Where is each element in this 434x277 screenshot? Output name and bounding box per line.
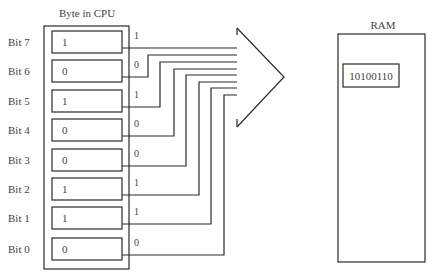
- wire-value-label: 0: [134, 118, 139, 129]
- wire-value-label: 0: [134, 59, 139, 70]
- wire-value-label: 1: [134, 206, 139, 217]
- bit-value: 0: [62, 124, 68, 136]
- bit-row: Bit 711: [8, 30, 139, 53]
- bit-wire: [122, 88, 237, 224]
- bit-row: Bit 211: [8, 177, 139, 200]
- cpu-to-ram-diagram: Byte in CPU Bit 711Bit 600Bit 511Bit 400…: [0, 0, 434, 277]
- bit-wire: [122, 55, 237, 77]
- ram-title: RAM: [370, 19, 395, 31]
- bit-value: 0: [62, 65, 68, 77]
- bit-value: 1: [62, 212, 68, 224]
- bit-row: Bit 111: [8, 206, 139, 229]
- bit-rows: Bit 711Bit 600Bit 511Bit 400Bit 300Bit 2…: [8, 30, 139, 260]
- bit-label: Bit 1: [8, 212, 30, 224]
- wire-value-label: 1: [134, 30, 139, 41]
- bit-value: 1: [62, 36, 68, 48]
- wire-value-label: 0: [134, 148, 139, 159]
- ram-box: [338, 34, 425, 262]
- bus-arrow: [237, 28, 284, 127]
- wires: [122, 48, 237, 255]
- bit-value: 0: [62, 243, 68, 255]
- bit-value: 1: [62, 95, 68, 107]
- bit-row: Bit 600: [8, 59, 139, 82]
- bit-row: Bit 000: [8, 237, 139, 260]
- wire-value-label: 1: [134, 177, 139, 188]
- ram-byte-value: 10100110: [349, 70, 393, 82]
- bit-row: Bit 300: [8, 148, 139, 171]
- bit-row: Bit 511: [8, 89, 139, 112]
- bit-wire: [122, 75, 237, 166]
- cpu-byte-box: [44, 26, 129, 269]
- wire-value-label: 1: [134, 89, 139, 100]
- bit-label: Bit 2: [8, 183, 30, 195]
- bit-row: Bit 400: [8, 118, 139, 141]
- bit-value: 1: [62, 183, 68, 195]
- cpu-title: Byte in CPU: [59, 7, 115, 19]
- bit-label: Bit 3: [8, 154, 30, 166]
- bit-label: Bit 6: [8, 65, 30, 77]
- bit-wire: [122, 69, 237, 136]
- bit-label: Bit 0: [8, 243, 30, 255]
- wire-value-label: 0: [134, 237, 139, 248]
- bit-label: Bit 7: [8, 36, 30, 48]
- bit-value: 0: [62, 154, 68, 166]
- bit-label: Bit 5: [8, 95, 30, 107]
- bit-wire: [122, 82, 237, 195]
- bit-wire: [122, 95, 237, 255]
- bit-label: Bit 4: [8, 124, 30, 136]
